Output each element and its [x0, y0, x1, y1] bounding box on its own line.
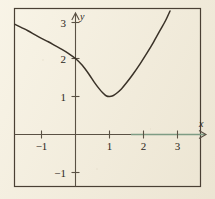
y-tick-label-1: 1 — [61, 91, 67, 103]
y-tick-label-neg1: −1 — [54, 167, 66, 179]
y-tick-label-3: 3 — [61, 17, 67, 29]
x-tick-label-neg1: −1 — [36, 140, 48, 152]
x-tick-label-1: 1 — [107, 140, 113, 152]
x-tick-label-2: 2 — [141, 140, 147, 152]
y-axis-label: y — [79, 11, 85, 22]
x-tick-label-3: 3 — [175, 140, 181, 152]
plot-area: −1 1 2 3 3 2 1 −1 y x — [0, 0, 215, 199]
plot-frame — [15, 9, 201, 187]
x-axis-label: x — [198, 118, 204, 129]
y-tick-label-2: 2 — [61, 53, 67, 65]
graph-figure: −1 1 2 3 3 2 1 −1 y x — [0, 0, 215, 199]
curve-line — [15, 11, 170, 97]
